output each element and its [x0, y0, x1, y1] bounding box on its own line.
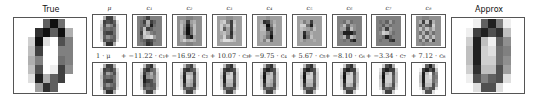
- pixel: [28, 19, 36, 28]
- component-image: [371, 14, 406, 48]
- pixel: [28, 83, 36, 92]
- pixel: [458, 56, 466, 65]
- pixel: [50, 37, 58, 46]
- partial-grid: [416, 64, 441, 94]
- partial-reconstruction: [212, 62, 247, 96]
- pixel: [458, 74, 466, 83]
- partial-grid: [376, 64, 401, 94]
- pixel: [503, 83, 511, 92]
- component-label: c₂: [172, 4, 207, 11]
- pixel: [511, 37, 519, 46]
- pixel: [458, 37, 466, 46]
- component-image: [332, 14, 367, 48]
- component-grid: [177, 16, 202, 46]
- pixel: [496, 19, 504, 28]
- pixel: [496, 56, 504, 65]
- pixel: [473, 46, 481, 55]
- pixel: [239, 42, 242, 46]
- pixel: [279, 42, 282, 46]
- pixel: [496, 28, 504, 37]
- partial-reconstruction: [92, 62, 127, 96]
- pixel: [511, 83, 519, 92]
- component-label: c₅: [292, 4, 327, 11]
- pixel: [511, 56, 519, 65]
- pixel: [488, 37, 496, 46]
- pixel: [28, 56, 36, 65]
- pixel: [481, 56, 489, 65]
- pixel: [481, 28, 489, 37]
- pixel: [466, 56, 474, 65]
- coefficient-term: + −3.34 · c₇: [366, 52, 406, 60]
- pixel: [20, 83, 28, 92]
- partial-reconstruction: [371, 62, 406, 96]
- pixel: [481, 19, 489, 28]
- pixel: [119, 42, 122, 46]
- partial-grid: [217, 64, 242, 94]
- component-image: [172, 14, 207, 48]
- pixel: [20, 74, 28, 83]
- pixel: [73, 46, 81, 55]
- true-image-grid: [20, 19, 80, 92]
- pixel: [511, 28, 519, 37]
- approx-title: Approx: [451, 5, 527, 14]
- true-image: [13, 17, 87, 94]
- component-label: μ: [92, 4, 127, 11]
- pixel: [488, 65, 496, 74]
- partial-reconstruction: [132, 62, 167, 96]
- pixel: [50, 46, 58, 55]
- pixel: [359, 90, 362, 94]
- pixel: [438, 42, 441, 46]
- pixel: [35, 74, 43, 83]
- pixel: [466, 83, 474, 92]
- pixel: [58, 37, 66, 46]
- component-image: [411, 14, 446, 48]
- pixel: [466, 74, 474, 83]
- pixel: [35, 19, 43, 28]
- component-image: [292, 14, 327, 48]
- pixel: [466, 65, 474, 74]
- pixel: [65, 83, 73, 92]
- pixel: [496, 83, 504, 92]
- pixel: [199, 42, 202, 46]
- component-grid: [137, 16, 162, 46]
- pixel: [58, 65, 66, 74]
- pixel: [35, 28, 43, 37]
- pixel: [496, 37, 504, 46]
- pixel: [35, 37, 43, 46]
- pixel: [488, 74, 496, 83]
- pixel: [65, 46, 73, 55]
- pixel: [438, 90, 441, 94]
- component-grid: [257, 16, 282, 46]
- component-grid: [97, 16, 122, 46]
- pixel: [50, 28, 58, 37]
- component-label: c₈: [411, 4, 446, 11]
- pixel: [458, 83, 466, 92]
- pixel: [488, 28, 496, 37]
- partial-grid: [337, 64, 362, 94]
- pixel: [28, 46, 36, 55]
- pixel: [73, 28, 81, 37]
- pixel: [458, 28, 466, 37]
- pixel: [239, 90, 242, 94]
- pixel: [458, 46, 466, 55]
- partial-reconstruction: [292, 62, 327, 96]
- pixel: [466, 37, 474, 46]
- pixel: [73, 74, 81, 83]
- pixel: [503, 28, 511, 37]
- pixel: [473, 65, 481, 74]
- pixel: [43, 74, 51, 83]
- pixel: [58, 19, 66, 28]
- pixel: [50, 65, 58, 74]
- pixel: [503, 46, 511, 55]
- pixel: [65, 37, 73, 46]
- component-grid: [416, 16, 441, 46]
- pixel: [20, 28, 28, 37]
- pixel: [73, 65, 81, 74]
- pixel: [28, 65, 36, 74]
- approx-image-grid: [458, 19, 518, 92]
- pixel: [398, 42, 401, 46]
- pixel: [73, 83, 81, 92]
- pixel: [58, 83, 66, 92]
- pixel: [50, 83, 58, 92]
- pixel: [50, 56, 58, 65]
